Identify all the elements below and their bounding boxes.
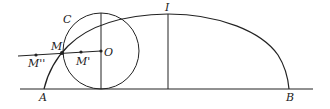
- diagram-canvas: C I M O M'' M' A B: [0, 0, 330, 109]
- label-b: B: [285, 91, 294, 104]
- point-m1: [79, 50, 82, 53]
- label-a: A: [38, 91, 47, 104]
- cycloid-diagram: C I M O M'' M' A B: [0, 0, 330, 109]
- point-o: [99, 49, 102, 52]
- label-m1: M': [75, 55, 90, 68]
- label-o: O: [104, 46, 113, 59]
- label-m2: M'': [27, 57, 45, 70]
- label-i: I: [164, 1, 170, 14]
- label-c: C: [63, 13, 72, 26]
- label-m: M: [50, 40, 63, 53]
